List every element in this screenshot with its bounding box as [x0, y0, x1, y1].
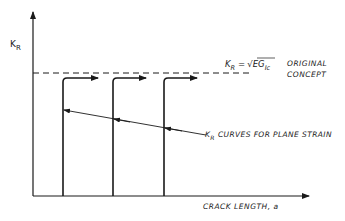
kr-curve-2 — [113, 78, 146, 196]
original-concept-label-2: CONCEPT — [287, 70, 327, 79]
x-axis-label: CRACK LENGTH, a — [203, 202, 279, 211]
equation-label: KR=√EGIc — [225, 59, 271, 72]
kr-curve-diagram: KR KR=√EGIc ORIGINAL CONCEPT KRCURVES FO… — [0, 0, 345, 221]
curves-label: KRCURVES FOR PLANE STRAIN — [205, 130, 332, 141]
kr-curve-3 — [164, 78, 197, 196]
leader-arrow-2 — [114, 119, 130, 122]
leader-arrow-3 — [165, 128, 182, 131]
y-axis-label: KR — [10, 39, 21, 52]
original-concept-label: ORIGINAL — [287, 59, 327, 68]
kr-curve-1 — [63, 78, 98, 196]
